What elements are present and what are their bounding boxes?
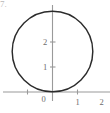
- x-tick-label-2: 2: [99, 97, 103, 107]
- figure-container: 7. 0 1 2 1 2: [0, 0, 110, 113]
- axes-group: [3, 5, 110, 101]
- plot-svg: 0 1 2 1 2: [0, 0, 110, 113]
- tick-labels-group: 0 1 2 1 2: [41, 37, 103, 107]
- x-tick-label-0: 0: [41, 94, 45, 104]
- x-tick-label-1: 1: [75, 97, 79, 107]
- y-tick-label-1: 1: [43, 62, 47, 72]
- y-tick-label-2: 2: [43, 37, 47, 47]
